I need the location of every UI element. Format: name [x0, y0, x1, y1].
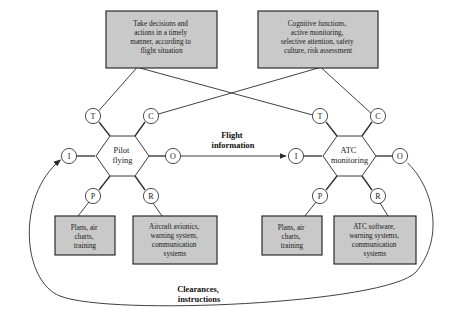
- flight-information-label: Flight information: [212, 131, 255, 150]
- control-connectors: [95, 68, 373, 118]
- atc-control-box-text: Cognitive functions, active monitoring, …: [281, 20, 356, 55]
- atc-node-P-label: P: [318, 192, 323, 201]
- pilot-control-box[interactable]: Take decisions and actions in a timely m…: [106, 11, 217, 68]
- spoke-pilot-C: [135, 122, 145, 136]
- diagram-canvas: Pilot flying T C I O P R: [0, 0, 464, 326]
- spoke-atc-T: [326, 122, 337, 136]
- pilot-resource-box[interactable]: Aircraft avionics, warning system, commu…: [133, 216, 217, 264]
- atc-precondition-box-text: Plans, air charts, training: [278, 224, 307, 250]
- line-pilot-R-to-avionics-box: [153, 203, 162, 216]
- atc-node-T-label: T: [318, 112, 323, 121]
- atc-precondition-box[interactable]: Plans, air charts, training: [262, 216, 322, 255]
- atc-node-O-label: O: [397, 152, 403, 161]
- line-pilot-P-to-plans-box: [78, 202, 89, 216]
- spoke-pilot-P: [99, 176, 110, 190]
- pilot-node-O-label: O: [170, 152, 176, 161]
- line-atc-P-to-plans-box: [305, 202, 316, 216]
- pilot-node-P-label: P: [91, 192, 96, 201]
- pilot-node-R-label: R: [148, 192, 154, 201]
- pilot-precondition-box-text: Plans, air charts, training: [71, 224, 100, 250]
- fram-diagram: Pilot flying T C I O P R: [0, 0, 464, 326]
- atc-resource-box[interactable]: ATC software, warning systems, communica…: [334, 216, 416, 264]
- pilot-function-group: Pilot flying T C I O P R: [61, 108, 180, 203]
- spoke-atc-C: [362, 122, 372, 136]
- spoke-pilot-R: [135, 176, 145, 190]
- pilot-node-T-label: T: [91, 112, 96, 121]
- atc-function-group: ATC monitoring T C I O P R: [288, 108, 407, 203]
- atc-control-box[interactable]: Cognitive functions, active monitoring, …: [258, 11, 378, 68]
- pilot-node-C-label: C: [148, 112, 153, 121]
- spoke-atc-P: [326, 176, 337, 190]
- atc-node-R-label: R: [375, 192, 381, 201]
- atc-node-I-label: I: [295, 152, 298, 161]
- pilot-precondition-box[interactable]: Plans, air charts, training: [55, 216, 115, 255]
- line-atcbox-to-atc-C: [321, 68, 373, 116]
- spoke-pilot-T: [99, 122, 110, 136]
- atc-node-C-label: C: [375, 112, 380, 121]
- spoke-atc-R: [362, 176, 372, 190]
- line-atc-R-to-software-box: [380, 203, 388, 216]
- clearances-instructions-label: Clearances, instructions: [177, 285, 221, 304]
- resource-connectors: [78, 202, 388, 216]
- pilot-hexagon-label: Pilot flying: [112, 146, 133, 165]
- line-pilotbox-to-pilot-T: [95, 68, 137, 116]
- pilot-node-I-label: I: [68, 152, 71, 161]
